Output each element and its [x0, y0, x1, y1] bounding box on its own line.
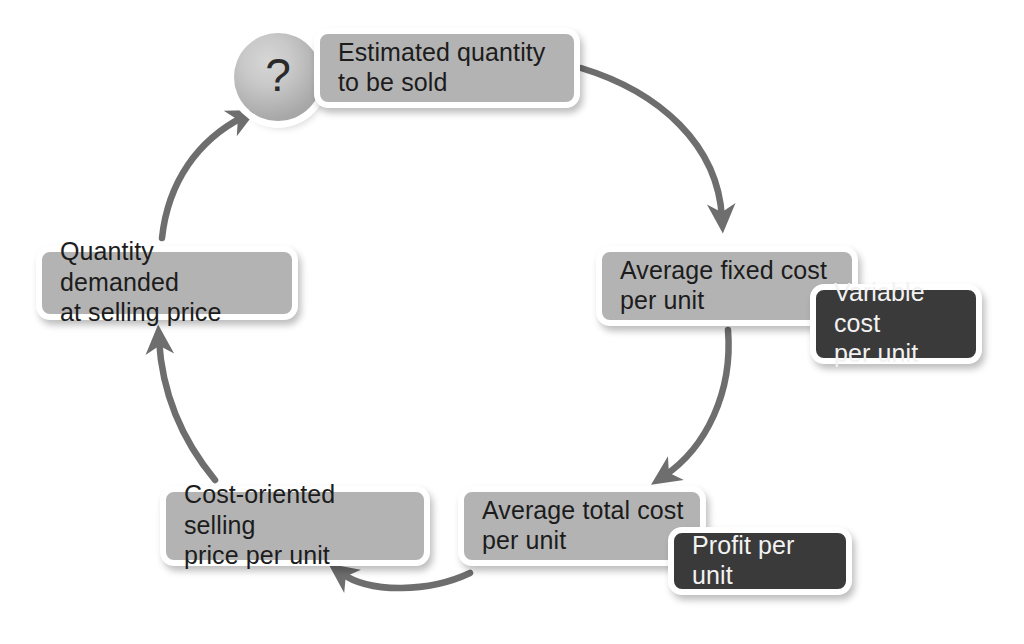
node-cost-oriented-selling-price-label: Cost-oriented selling price per unit [184, 479, 408, 571]
node-quantity-demanded[interactable]: Quantity demanded at selling price [36, 246, 298, 320]
question-mark-icon: ? [265, 52, 291, 98]
node-variable-cost-label: Variable cost per unit [834, 277, 960, 369]
arrow-fixed-to-total [664, 330, 729, 476]
node-variable-cost[interactable]: Variable cost per unit [810, 284, 982, 364]
node-estimated-quantity-label: Estimated quantity to be sold [338, 37, 545, 98]
node-quantity-demanded-label: Quantity demanded at selling price [60, 236, 276, 328]
diagram-canvas: ? Estimated quantity to be sold Average … [0, 0, 1024, 644]
node-estimated-quantity[interactable]: Estimated quantity to be sold [314, 28, 580, 108]
arrow-cost-price-to-demand [159, 340, 215, 480]
node-profit-per-unit-label: Profit per unit [692, 530, 830, 591]
node-avg-fixed-cost-label: Average fixed cost per unit [620, 255, 827, 316]
node-cost-oriented-selling-price[interactable]: Cost-oriented selling price per unit [160, 486, 430, 566]
node-avg-total-cost-label: Average total cost per unit [482, 495, 683, 556]
question-mark-sphere: ? [234, 33, 322, 121]
arrow-total-to-cost-price [341, 573, 470, 588]
arrow-demand-to-unknown [162, 117, 243, 238]
node-profit-per-unit[interactable]: Profit per unit [668, 527, 852, 595]
arrow-estimated-to-fixed [581, 68, 722, 218]
